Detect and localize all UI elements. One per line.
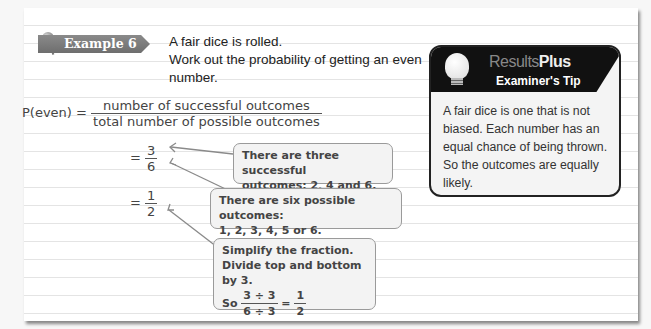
page: Example 6 A fair dice is rolled. Work ou… [24, 8, 638, 321]
note-successful-outcomes: There are three successful outcomes: 2, … [233, 143, 393, 184]
results-plus-logo: ResultsPlus [489, 53, 571, 71]
note-possible-outcomes: There are six possible outcomes: 1, 2, 3… [210, 188, 402, 229]
note-simplify: Simplify the fraction. Divide top and bo… [213, 238, 376, 310]
tip-body: A fair dice is one that is not biased. E… [443, 102, 613, 192]
lightbulb-icon [445, 53, 469, 79]
examiner-tip-box: ResultsPlus Examiner's Tip A fair dice i… [429, 45, 621, 197]
tip-title: Examiner's Tip [496, 74, 581, 88]
lightbulb-base-icon [451, 78, 463, 85]
